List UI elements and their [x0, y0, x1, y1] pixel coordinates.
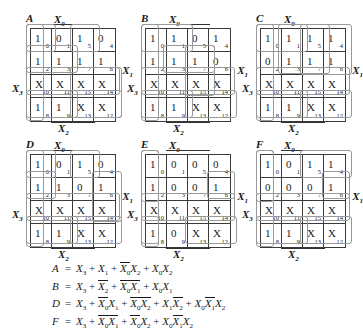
kmap-cell[interactable]: 03 [167, 178, 188, 201]
kmap-cell[interactable]: X13 [303, 224, 324, 247]
kmap-cell[interactable]: 05 [188, 29, 209, 52]
kmap-cell[interactable]: 13 [52, 52, 73, 75]
kmap-cell[interactable]: 12 [146, 178, 167, 201]
kmap-cell[interactable]: X14 [209, 201, 230, 224]
kmap-cell[interactable]: X15 [188, 201, 209, 224]
kmap-cell[interactable]: X10 [261, 201, 282, 224]
kmap-cell[interactable]: 01 [52, 29, 73, 52]
kmap-cell[interactable]: 05 [188, 155, 209, 178]
kmap-cell[interactable]: 14 [209, 29, 230, 52]
kmap-cell[interactable]: 09 [167, 224, 188, 247]
kmap-cell[interactable]: X13 [303, 98, 324, 121]
kmap-cell[interactable]: X11 [167, 75, 188, 98]
kmap-cell[interactable]: 07 [303, 178, 324, 201]
kmap-cell[interactable]: 16 [209, 178, 230, 201]
kmap-cell[interactable]: X12 [324, 224, 345, 247]
kmap-cell[interactable]: 10 [146, 155, 167, 178]
kmap-cell[interactable]: X11 [282, 75, 303, 98]
kmap-cell[interactable]: 16 [94, 52, 115, 75]
kmap-cell[interactable]: 15 [303, 29, 324, 52]
kmap-cell[interactable]: 04 [209, 155, 230, 178]
kmap-cell[interactable]: 12 [146, 52, 167, 75]
kmap-cell[interactable]: 17 [188, 52, 209, 75]
kmap-cell[interactable]: 19 [167, 98, 188, 121]
kmap-cell[interactable]: X14 [209, 75, 230, 98]
kmap-cell[interactable]: 04 [94, 155, 115, 178]
kmap-cell[interactable]: X15 [73, 75, 94, 98]
kmap-cell[interactable]: 18 [261, 98, 282, 121]
kmap-cell[interactable]: 04 [94, 29, 115, 52]
kmap-cell[interactable]: 07 [188, 178, 209, 201]
kmap-cell[interactable]: 15 [73, 155, 94, 178]
kmap-cell[interactable]: X12 [209, 224, 230, 247]
kmap-cell[interactable]: 14 [324, 29, 345, 52]
kmap-cell[interactable]: X10 [31, 75, 52, 98]
kmap-cell[interactable]: 16 [324, 52, 345, 75]
kmap-cell[interactable]: X13 [188, 98, 209, 121]
kmap-cell[interactable]: 13 [282, 52, 303, 75]
kmap-cell[interactable]: X14 [94, 201, 115, 224]
kmap-cell[interactable]: 17 [303, 52, 324, 75]
kmap-cell[interactable]: 01 [282, 155, 303, 178]
cell-value: X [328, 101, 336, 113]
kmap-cell[interactable]: X14 [94, 75, 115, 98]
kmap-cell[interactable]: 10 [31, 155, 52, 178]
kmap-cell[interactable]: 13 [52, 178, 73, 201]
kmap-cell[interactable]: X11 [52, 75, 73, 98]
kmap-cell[interactable]: 15 [303, 155, 324, 178]
kmap-cell[interactable]: 06 [209, 52, 230, 75]
kmap-cell[interactable]: 13 [167, 52, 188, 75]
kmap-cell[interactable]: 12 [31, 52, 52, 75]
kmap-cell[interactable]: 18 [146, 224, 167, 247]
kmap-cell[interactable]: X13 [73, 224, 94, 247]
kmap-cell[interactable]: X15 [188, 75, 209, 98]
kmap-cell[interactable]: 01 [167, 155, 188, 178]
kmap-cell[interactable]: X11 [282, 201, 303, 224]
kmap-cell[interactable]: 16 [94, 178, 115, 201]
kmap-cell[interactable]: X15 [303, 201, 324, 224]
kmap-cell[interactable]: X11 [52, 201, 73, 224]
equation-term: X0X2 [130, 315, 150, 332]
kmap-cell[interactable]: 10 [146, 29, 167, 52]
kmap-cell[interactable]: 19 [282, 98, 303, 121]
kmap-cell[interactable]: X12 [94, 98, 115, 121]
kmap-cell[interactable]: 16 [324, 178, 345, 201]
kmap-cell[interactable]: 15 [73, 29, 94, 52]
kmap-cell[interactable]: 19 [282, 224, 303, 247]
kmap-cell[interactable]: 12 [31, 178, 52, 201]
kmap-cell[interactable]: 02 [261, 178, 282, 201]
cell-value: X [213, 227, 221, 239]
kmap-cell[interactable]: X12 [94, 224, 115, 247]
kmap-cell[interactable]: 10 [261, 155, 282, 178]
kmap-cell[interactable]: 07 [73, 178, 94, 201]
kmap-cell[interactable]: 17 [73, 52, 94, 75]
kmap-cell[interactable]: 11 [282, 29, 303, 52]
kmap-cell[interactable]: 02 [261, 52, 282, 75]
cell-value: 0 [192, 181, 198, 193]
kmap-cell[interactable]: X12 [209, 98, 230, 121]
kmap-cell[interactable]: 19 [52, 98, 73, 121]
kmap-cell[interactable]: X15 [303, 75, 324, 98]
kmap-cell[interactable]: X14 [324, 201, 345, 224]
kmap-cell[interactable]: X12 [324, 98, 345, 121]
kmap-cell[interactable]: X14 [324, 75, 345, 98]
kmap-cell[interactable]: X13 [188, 224, 209, 247]
kmap-cell[interactable]: X10 [146, 75, 167, 98]
kmap-cell[interactable]: 18 [31, 224, 52, 247]
kmap-cell[interactable]: 11 [167, 29, 188, 52]
kmap-cell[interactable]: 19 [52, 224, 73, 247]
kmap-cell[interactable]: 14 [324, 155, 345, 178]
kmap-cell[interactable]: X15 [73, 201, 94, 224]
kmap-cell[interactable]: 18 [261, 224, 282, 247]
kmap-cell[interactable]: 10 [261, 29, 282, 52]
kmap-cell[interactable]: X10 [261, 75, 282, 98]
kmap-cell[interactable]: 01 [52, 155, 73, 178]
kmap-cell[interactable]: 18 [146, 98, 167, 121]
kmap-cell[interactable]: X10 [146, 201, 167, 224]
kmap-cell[interactable]: 10 [31, 29, 52, 52]
kmap-cell[interactable]: 18 [31, 98, 52, 121]
kmap-cell[interactable]: X11 [167, 201, 188, 224]
kmap-cell[interactable]: 03 [282, 178, 303, 201]
kmap-cell[interactable]: X13 [73, 98, 94, 121]
kmap-cell[interactable]: X10 [31, 201, 52, 224]
